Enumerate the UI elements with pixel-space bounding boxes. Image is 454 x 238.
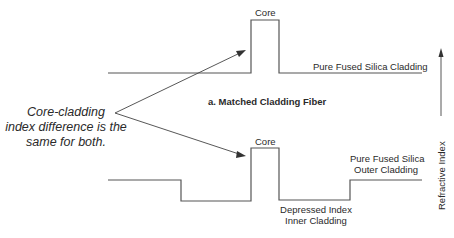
note-line-1: Core-cladding bbox=[4, 105, 128, 120]
refractive-index-axis-label: Refractive Index bbox=[436, 141, 447, 210]
depressed-core-label: Core bbox=[255, 136, 276, 147]
annotation-arrow-bottom bbox=[115, 113, 242, 155]
arrowhead-top-icon bbox=[236, 50, 246, 57]
outer-cladding-label: Pure Fused Silica Outer Cladding bbox=[350, 153, 422, 175]
axis-arrowhead-icon bbox=[439, 48, 444, 57]
matched-cladding-label: Pure Fused Silica Cladding bbox=[313, 61, 428, 72]
outer-cladding-line-2: Outer Cladding bbox=[350, 164, 422, 175]
outer-cladding-line-1: Pure Fused Silica bbox=[350, 153, 422, 164]
note-line-2: index difference is the bbox=[4, 120, 128, 135]
inner-cladding-line-1: Depressed Index bbox=[280, 204, 352, 215]
inner-cladding-label: Depressed Index Inner Cladding bbox=[280, 204, 352, 226]
matched-fiber-title: a. Matched Cladding Fiber bbox=[208, 96, 326, 107]
annotation-note: Core-cladding index difference is the sa… bbox=[4, 105, 128, 150]
inner-cladding-line-2: Inner Cladding bbox=[280, 215, 352, 226]
arrowhead-bottom-icon bbox=[236, 151, 246, 158]
note-line-3: same for both. bbox=[4, 135, 128, 150]
matched-core-label: Core bbox=[255, 7, 276, 18]
